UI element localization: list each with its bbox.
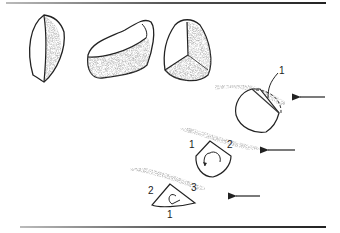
elongated-stone-icon xyxy=(88,20,154,78)
lens-stone-icon xyxy=(30,15,65,82)
stage-3-label-2: 2 xyxy=(148,186,154,196)
stage-1-label-1: 1 xyxy=(279,66,285,76)
pebble-abrasion-figure xyxy=(0,0,340,233)
stage-2-diagram xyxy=(165,128,300,177)
bottom-rule xyxy=(20,226,326,228)
stage-3-label-1: 1 xyxy=(167,210,173,220)
stage-3-label-3: 3 xyxy=(191,183,197,193)
top-rule xyxy=(6,2,326,4)
stage-2-label-1: 1 xyxy=(189,140,195,150)
three-faceted-stone-icon xyxy=(164,20,211,81)
stage-2-label-2: 2 xyxy=(227,140,233,150)
stage-1-diagram xyxy=(195,73,340,132)
